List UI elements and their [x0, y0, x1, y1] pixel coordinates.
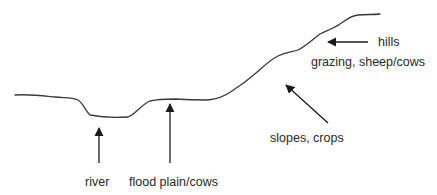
hills-label: hills: [378, 36, 400, 49]
land-profile-diagram: [0, 0, 437, 195]
slopes-arrow: [286, 85, 328, 123]
river-label: river: [85, 176, 109, 189]
hills-use-label: grazing, sheep/cows: [311, 56, 425, 69]
flood-plain-label: flood plain/cows: [129, 176, 218, 189]
slopes-label: slopes, crops: [270, 132, 344, 145]
